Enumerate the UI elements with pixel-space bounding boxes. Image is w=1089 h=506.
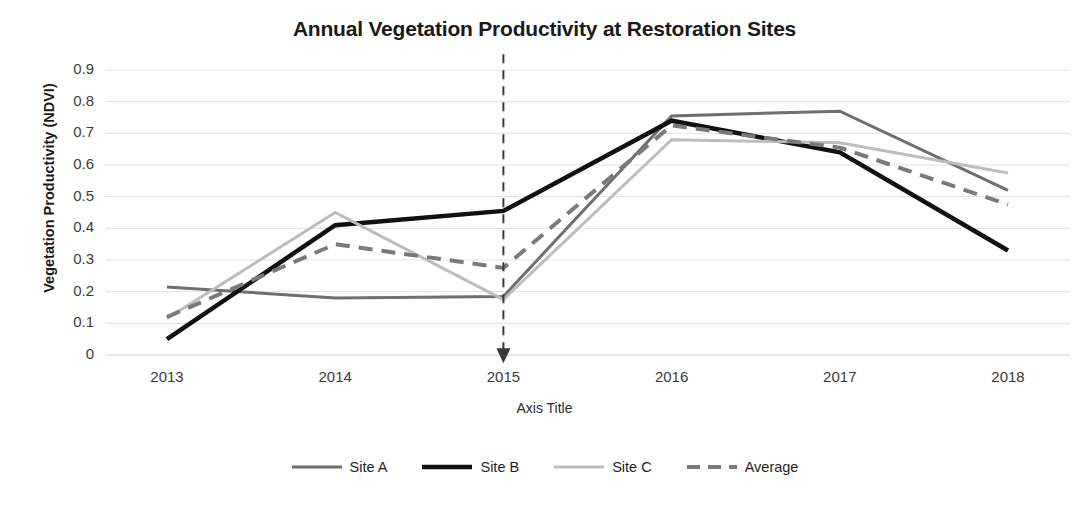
x-axis-tick-label-2015: 2015 xyxy=(458,368,548,385)
legend-label: Site C xyxy=(612,459,652,475)
x-axis-tick-label-2014: 2014 xyxy=(290,368,380,385)
y-axis-tick-label: 0.6 xyxy=(50,155,94,172)
x-axis-title: Axis Title xyxy=(0,400,1089,416)
x-axis-tick-label-2016: 2016 xyxy=(627,368,717,385)
y-axis-tick-label: 0.9 xyxy=(50,60,94,77)
legend-item-site-c[interactable]: Site C xyxy=(553,459,652,475)
legend-item-site-b[interactable]: Site B xyxy=(421,459,519,475)
legend-label: Site A xyxy=(350,459,388,475)
legend-swatch-icon xyxy=(421,460,473,474)
legend-label: Average xyxy=(745,459,799,475)
gridlines xyxy=(105,70,1070,355)
legend-item-site-a[interactable]: Site A xyxy=(291,459,388,475)
legend-swatch-icon xyxy=(553,460,605,474)
x-axis-tick-label-2017: 2017 xyxy=(795,368,885,385)
x-axis-tick-label-2018: 2018 xyxy=(963,368,1053,385)
y-axis-tick-labels: 0.90.80.70.60.50.40.30.20.10 xyxy=(50,0,94,506)
series-lines xyxy=(167,111,1008,339)
legend-label: Site B xyxy=(480,459,519,475)
y-axis-tick-label: 0.3 xyxy=(50,250,94,267)
plot-svg xyxy=(105,60,1070,360)
legend-swatch-icon xyxy=(686,460,738,474)
chart-legend: Site ASite BSite CAverage xyxy=(0,459,1089,475)
chart-container: Annual Vegetation Productivity at Restor… xyxy=(0,0,1089,506)
x-axis-tick-label-2013: 2013 xyxy=(122,368,212,385)
y-axis-tick-label: 0.5 xyxy=(50,187,94,204)
series-line-site-b xyxy=(167,121,1008,339)
y-axis-tick-label: 0.2 xyxy=(50,282,94,299)
y-axis-tick-label: 0.8 xyxy=(50,92,94,109)
chart-title: Annual Vegetation Productivity at Restor… xyxy=(0,17,1089,41)
y-axis-tick-label: 0.7 xyxy=(50,123,94,140)
y-axis-tick-label: 0 xyxy=(50,345,94,362)
annotation-arrowhead-icon xyxy=(496,348,510,363)
y-axis-tick-label: 0.1 xyxy=(50,313,94,330)
series-line-site-a xyxy=(167,111,1008,298)
plot-area xyxy=(105,60,1070,360)
legend-swatch-icon xyxy=(291,460,343,474)
y-axis-tick-label: 0.4 xyxy=(50,218,94,235)
legend-item-average[interactable]: Average xyxy=(686,459,799,475)
